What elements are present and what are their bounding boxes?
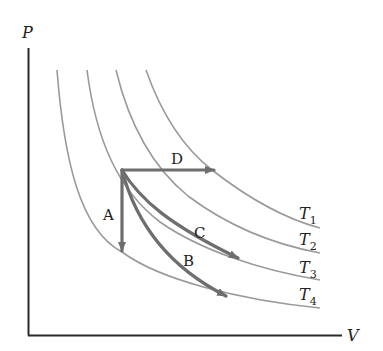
path-labels: D A C B [102,150,205,270]
path-label-a: A [102,206,114,224]
isotherm-labels: T1 T2 T3 T4 [299,204,317,308]
isotherm-label-t4: T4 [299,285,317,308]
pv-diagram: P V T1 T2 T3 T4 D A C B [0,0,383,351]
x-axis-label: V [347,326,360,345]
path-label-d: D [171,150,183,168]
path-label-b: B [183,252,194,270]
path-label-c: C [194,224,205,242]
isotherm-t1 [146,70,320,228]
y-axis-label: P [21,23,33,42]
